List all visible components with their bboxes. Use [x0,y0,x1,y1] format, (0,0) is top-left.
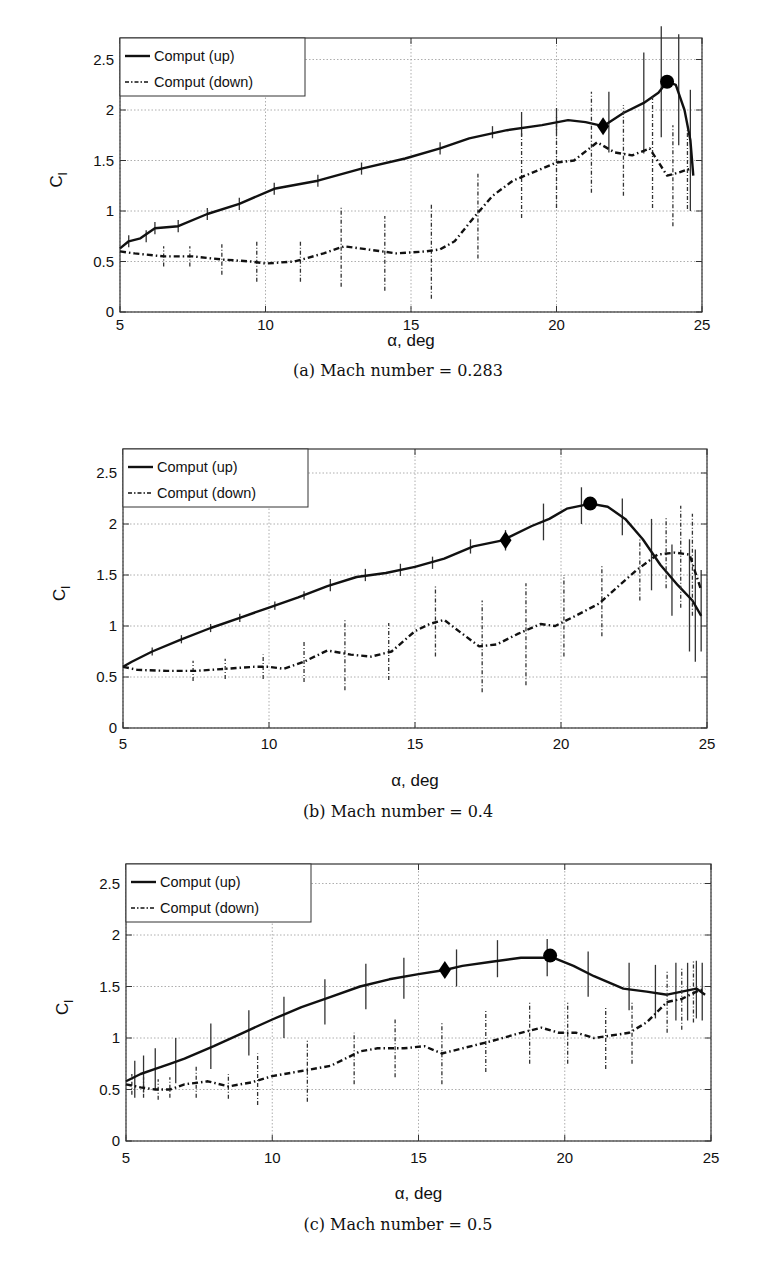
series-comput-up [126,939,705,1098]
figure-caption: (b) Mach number = 0.4 [303,802,493,821]
y-tick-label: 1 [109,617,117,634]
x-tick-label: 20 [553,735,570,752]
y-tick-label: 2 [112,926,120,943]
x-tick-label: 15 [407,735,424,752]
series-line [120,142,690,263]
x-axis-label: α, deg [395,1184,443,1203]
y-tick-label: 0 [106,303,114,320]
y-axis-label: Cl [53,1000,76,1015]
x-tick-label: 10 [261,735,278,752]
y-tick-label: 1.5 [96,566,117,583]
series-line [123,553,701,671]
x-axis-label: α, deg [391,771,439,790]
figure-caption: (a) Mach number = 0.283 [293,361,503,380]
y-tick-label: 2 [109,515,117,532]
series-line [126,958,705,1082]
chart-panel-a: 51015202500.511.522.5α, degClComput (up)… [47,26,710,380]
x-tick-label: 25 [699,735,716,752]
y-tick-label: 0 [112,1132,120,1149]
x-tick-label: 5 [119,735,127,752]
legend-entry: Comput (up) [157,459,238,475]
y-tick-label: 0.5 [99,1081,120,1098]
legend: Comput (up)Comput (down) [126,864,311,922]
x-tick-label: 20 [548,316,565,333]
series-comput-down [123,506,701,693]
series-line [123,504,701,667]
y-tick-label: 2 [106,101,114,118]
x-tick-label: 5 [116,316,124,333]
x-tick-label: 25 [703,1149,720,1166]
figure: 51015202500.511.522.5α, degClComput (up)… [0,0,767,1271]
legend: Comput (up)Comput (down) [123,449,308,507]
x-tick-label: 25 [694,316,711,333]
diamond-marker [597,117,609,135]
y-axis-label: Cl [47,172,70,187]
legend-entry: Comput (up) [154,48,235,64]
y-tick-label: 1 [106,202,114,219]
series-comput-up [123,487,701,667]
legend-entry: Comput (down) [160,900,259,916]
legend-entry: Comput (down) [157,485,256,501]
x-tick-label: 10 [264,1149,281,1166]
circle-marker [543,949,557,963]
x-axis-label: α, deg [387,331,435,350]
circle-marker [660,75,674,89]
y-tick-label: 2.5 [93,51,114,68]
x-tick-label: 10 [257,316,274,333]
y-tick-label: 1.5 [93,152,114,169]
chart-panel-b: 51015202500.511.522.5α, degClComput (up)… [50,449,715,821]
diamond-marker [500,531,512,549]
circle-marker [583,497,597,511]
y-tick-label: 1.5 [99,978,120,995]
series-comput-down [126,961,705,1105]
diamond-marker [439,961,451,979]
x-tick-label: 15 [410,1149,427,1166]
chart-panel-c: 51015202500.511.522.5α, degClComput (up)… [53,864,719,1234]
legend-entry: Comput (down) [154,74,253,90]
legend-entry: Comput (up) [160,874,241,890]
figure-caption: (c) Mach number = 0.5 [304,1215,493,1234]
y-tick-label: 0.5 [96,668,117,685]
y-tick-label: 1 [112,1029,120,1046]
y-tick-label: 2.5 [99,875,120,892]
y-tick-label: 2.5 [96,464,117,481]
y-tick-label: 0 [109,719,117,736]
y-axis-label: Cl [50,586,73,601]
legend: Comput (up)Comput (down) [120,38,305,96]
x-tick-label: 5 [122,1149,130,1166]
series-line [126,989,705,1090]
y-tick-label: 0.5 [93,253,114,270]
x-tick-label: 20 [556,1149,573,1166]
series-line [120,82,693,249]
